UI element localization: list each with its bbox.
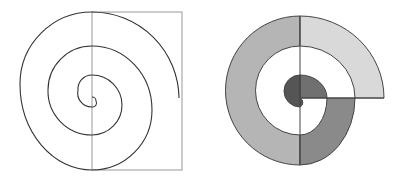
spiral-diagram [0,0,403,180]
inner-top-right-quarter-segment [300,75,327,98]
left-spiral-panel [20,12,182,170]
bounding-rectangle [92,12,182,170]
mid-bottom-right-quarter-segment [300,98,355,165]
right-shaded-spiral-panel [225,16,384,165]
spiral-line [20,12,179,170]
